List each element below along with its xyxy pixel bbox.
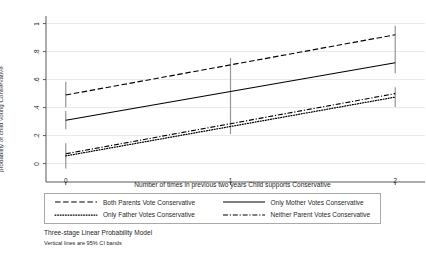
y-tick-label-1: .2 (33, 133, 40, 138)
note-ci: Vertical lines are 95% CI bands (44, 240, 122, 246)
legend-key-icon (55, 211, 97, 219)
y-axis-title: probability of child voting Conservative (0, 66, 6, 172)
y-tick-label-4: .8 (33, 49, 40, 54)
legend-label: Only Father Votes Conservative (103, 211, 195, 218)
legend-entry-only-mother-votes-conservative[interactable]: Only Mother Votes Conservative (213, 198, 381, 206)
legend-entry-both-parents-vote-conservative[interactable]: Both Parents Vote Conservative (45, 198, 213, 206)
y-tick-label-0: 0 (34, 162, 41, 166)
y-tick-label-5: 1 (34, 22, 41, 26)
legend-key-icon (223, 198, 265, 206)
chart-legend: Both Parents Vote ConservativeOnly Mothe… (44, 193, 381, 224)
legend-label: Both Parents Vote Conservative (103, 199, 195, 206)
plot-area: 0.2.4.6.81 012 (40, 14, 425, 172)
chart-figure: probability of child voting Conservative… (0, 0, 426, 258)
y-tick-label-3: .6 (33, 77, 40, 82)
legend-key-icon (223, 211, 265, 219)
legend-entry-only-father-votes-conservative[interactable]: Only Father Votes Conservative (45, 211, 213, 219)
legend-entry-neither-parent-votes-conservative[interactable]: Neither Parent Votes Conservative (213, 211, 381, 219)
legend-key-icon (55, 198, 97, 206)
plot-canvas (40, 14, 425, 172)
y-tick-label-2: .4 (33, 105, 40, 110)
legend-label: Only Mother Votes Conservative (271, 199, 364, 206)
note-model: Three-stage Linear Probability Model (44, 229, 152, 236)
x-axis-title: Number of times in previous two years Ch… (40, 181, 425, 188)
legend-label: Neither Parent Votes Conservative (271, 211, 371, 218)
y-axis-title-wrapper: probability of child voting Conservative (6, 14, 20, 172)
